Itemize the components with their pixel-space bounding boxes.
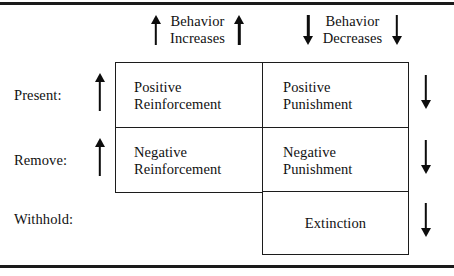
arrow-up-icon <box>94 138 105 176</box>
column-header-behavior-increases: Behavior Increases <box>131 10 264 50</box>
arrow-up-icon <box>150 15 161 45</box>
column-header-label: Behavior Increases <box>170 13 225 47</box>
bottom-divider-rule <box>0 265 454 268</box>
cell-label: Extinction <box>263 215 408 232</box>
cell-positive-reinforcement: Positive Reinforcement <box>115 62 263 128</box>
arrow-down-icon <box>420 140 431 174</box>
cell-negative-punishment: Negative Punishment <box>262 127 409 193</box>
cell-label: Negative Reinforcement <box>134 144 221 178</box>
row-header-withhold: Withhold: <box>14 211 94 228</box>
top-divider-rule <box>0 2 454 5</box>
row-header-remove: Remove: <box>14 152 94 169</box>
cell-label: Positive Punishment <box>283 79 352 113</box>
arrow-down-icon <box>303 15 314 45</box>
row-header-present: Present: <box>14 87 94 104</box>
cell-label: Negative Punishment <box>283 144 352 178</box>
arrow-down-icon <box>391 15 402 45</box>
cell-label: Positive Reinforcement <box>134 79 221 113</box>
arrow-up-icon <box>94 73 105 111</box>
column-header-label: Behavior Decreases <box>323 13 383 47</box>
column-header-behavior-decreases: Behavior Decreases <box>286 10 419 50</box>
cell-positive-punishment: Positive Punishment <box>262 62 409 128</box>
arrow-up-icon <box>234 15 245 45</box>
cell-extinction: Extinction <box>262 191 409 255</box>
cell-negative-reinforcement: Negative Reinforcement <box>115 127 263 193</box>
arrow-down-icon <box>420 75 431 109</box>
arrow-down-icon <box>420 203 431 237</box>
